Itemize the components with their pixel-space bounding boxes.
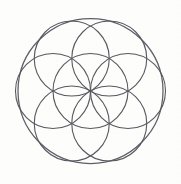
seed-of-life-canvas: Seed of Life: [0, 0, 181, 184]
seed-of-life-figure: Seed of Life: [0, 0, 181, 184]
